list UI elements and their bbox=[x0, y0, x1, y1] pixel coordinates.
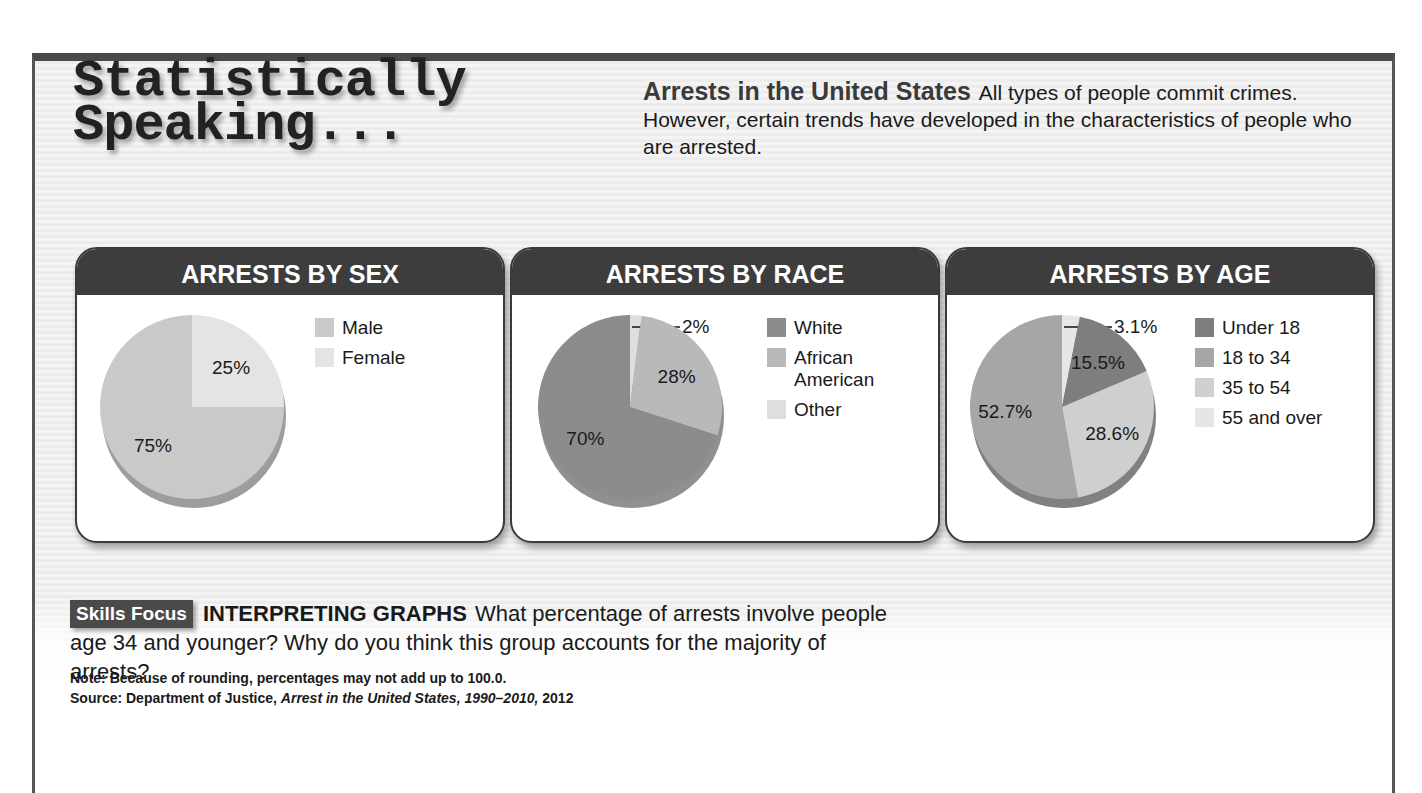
skills-focus-badge: Skills Focus bbox=[70, 600, 193, 628]
legend-swatch bbox=[767, 318, 786, 337]
legend-label: Under 18 bbox=[1222, 317, 1300, 339]
source-year: 2012 bbox=[538, 690, 573, 706]
legend-item: Male bbox=[315, 317, 405, 339]
legend-swatch bbox=[1195, 348, 1214, 367]
source-prefix: Source: Department of Justice, bbox=[70, 690, 281, 706]
chart-card-age: ARRESTS BY AGE 3.1%15.5%28.6%52.7% Under… bbox=[945, 247, 1375, 543]
legend-swatch bbox=[315, 348, 334, 367]
legend-item: Other bbox=[767, 399, 914, 421]
title-line-2: Speaking... bbox=[73, 96, 405, 155]
legend-label: White bbox=[794, 317, 843, 339]
pie-label: 28.6% bbox=[1085, 423, 1139, 444]
pie-label: 25% bbox=[212, 357, 250, 378]
chart-title: ARRESTS BY AGE bbox=[947, 249, 1373, 295]
feature-title: Statistically Speaking... bbox=[73, 60, 466, 148]
pie-label: 70% bbox=[566, 428, 604, 449]
chart-title: ARRESTS BY RACE bbox=[512, 249, 938, 295]
pie-label: 3.1% bbox=[1114, 316, 1157, 337]
legend-label: Female bbox=[342, 347, 405, 369]
legend-swatch bbox=[315, 318, 334, 337]
legend-swatch bbox=[767, 400, 786, 419]
legend-label: 55 and over bbox=[1222, 407, 1322, 429]
rounding-note: Note: Because of rounding, percentages m… bbox=[70, 668, 573, 688]
source-title: Arrest in the United States, 1990–2010, bbox=[281, 690, 539, 706]
legend-label: Male bbox=[342, 317, 383, 339]
legend-swatch bbox=[767, 348, 786, 367]
legend-label: 35 to 54 bbox=[1222, 377, 1291, 399]
legend-swatch bbox=[1195, 378, 1214, 397]
legend-item: White bbox=[767, 317, 914, 339]
source-line: Source: Department of Justice, Arrest in… bbox=[70, 688, 573, 708]
legend-label: African American bbox=[794, 347, 914, 391]
legend-item: 35 to 54 bbox=[1195, 377, 1322, 399]
legend: WhiteAfrican AmericanOther bbox=[767, 317, 914, 429]
legend-item: 55 and over bbox=[1195, 407, 1322, 429]
intro-heading: Arrests in the United States bbox=[643, 77, 971, 105]
legend-item: Female bbox=[315, 347, 405, 369]
legend-item: African American bbox=[767, 347, 914, 391]
pie-label: 2% bbox=[682, 316, 710, 337]
pie-label: 15.5% bbox=[1071, 352, 1125, 373]
notes: Note: Because of rounding, percentages m… bbox=[70, 668, 573, 708]
chart-card-sex: ARRESTS BY SEX 25%75% MaleFemale bbox=[75, 247, 505, 543]
skills-caption: INTERPRETING GRAPHS bbox=[203, 601, 467, 626]
chart-card-race: ARRESTS BY RACE 2%28%70% WhiteAfrican Am… bbox=[510, 247, 940, 543]
legend-swatch bbox=[1195, 318, 1214, 337]
legend: Under 1818 to 3435 to 5455 and over bbox=[1195, 317, 1322, 437]
chart-title: ARRESTS BY SEX bbox=[77, 249, 503, 295]
legend-label: 18 to 34 bbox=[1222, 347, 1291, 369]
pie-label: 52.7% bbox=[978, 401, 1032, 422]
pie-label: 28% bbox=[658, 366, 696, 387]
pie-chart-sex: 25%75% bbox=[77, 295, 505, 543]
legend-label: Other bbox=[794, 399, 842, 421]
legend-item: Under 18 bbox=[1195, 317, 1322, 339]
intro-text: Arrests in the United StatesAll types of… bbox=[643, 78, 1363, 160]
legend-swatch bbox=[1195, 408, 1214, 427]
pie-label: 75% bbox=[134, 435, 172, 456]
legend: MaleFemale bbox=[315, 317, 405, 377]
legend-item: 18 to 34 bbox=[1195, 347, 1322, 369]
